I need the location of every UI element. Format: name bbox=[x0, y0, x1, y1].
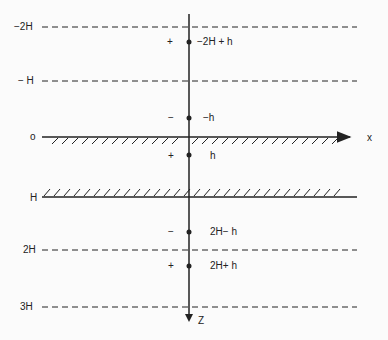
charge-minus-h: − −h bbox=[168, 112, 214, 123]
charge-sign: + bbox=[168, 260, 174, 271]
charge-dot-icon bbox=[187, 116, 192, 121]
charge-position-label: 2H+ h bbox=[210, 260, 237, 271]
level-label-3H: 3H bbox=[20, 301, 33, 312]
charge-dot-icon bbox=[187, 40, 192, 45]
charge-position-label: −2H + h bbox=[197, 36, 233, 47]
x-axis-label: x bbox=[367, 132, 372, 143]
charge-position-label: 2H− h bbox=[210, 226, 237, 237]
boundary-H bbox=[42, 189, 357, 197]
charge-sign: − bbox=[168, 226, 174, 237]
charge-dot-icon bbox=[187, 153, 192, 158]
charge-position-label: h bbox=[210, 150, 216, 161]
charge-sign: + bbox=[167, 36, 173, 47]
level-label-2H: 2H bbox=[23, 244, 36, 255]
level-label-minus-2H: −2H bbox=[14, 21, 33, 32]
charge-sign: + bbox=[168, 150, 174, 161]
boundary-zero bbox=[42, 137, 350, 144]
level-label-zero: o bbox=[30, 131, 36, 142]
charge-sign: − bbox=[168, 112, 174, 123]
level-label-H: H bbox=[30, 192, 37, 203]
charge-h: + h bbox=[168, 150, 216, 161]
z-axis-label: Z bbox=[198, 315, 204, 326]
charge-position-label: −h bbox=[203, 112, 214, 123]
charge-dot-icon bbox=[187, 264, 192, 269]
z-axis-arrow-icon bbox=[185, 314, 193, 322]
image-charges-diagram: x Z −2H − H o H 2H 3H + −2H + h − −h + h… bbox=[0, 0, 388, 340]
charge-2H-minus-h: − 2H− h bbox=[168, 226, 237, 237]
charge-2H-plus-h: + 2H+ h bbox=[168, 260, 237, 271]
charge-minus-2H-plus-h: + −2H + h bbox=[167, 36, 233, 47]
level-label-minus-H: − H bbox=[18, 75, 34, 86]
charge-dot-icon bbox=[187, 230, 192, 235]
